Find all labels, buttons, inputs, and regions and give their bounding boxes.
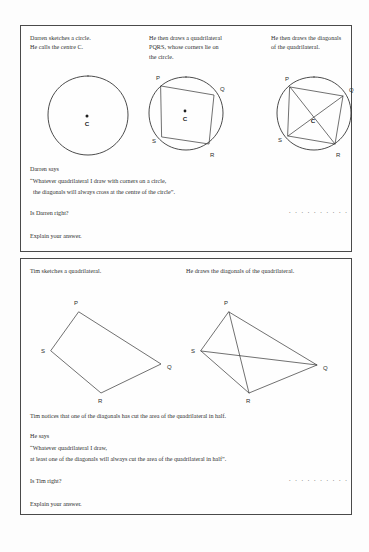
darren-explain-text: Explain your answer. bbox=[30, 231, 82, 243]
tim-quote-line2: at least one of the diagonals will alway… bbox=[30, 454, 226, 466]
circle-quad-diag-svg: C P Q R S bbox=[269, 68, 361, 160]
circle-quad-svg: C P Q R S bbox=[141, 68, 233, 160]
vertex-label-q: Q bbox=[167, 364, 172, 370]
vertex-label-q: Q bbox=[323, 365, 328, 371]
darren-ask-text: Is Darren right? bbox=[30, 208, 69, 220]
darren-says-heading: Darren says bbox=[30, 164, 175, 176]
tim-quote-line1: “Whatever quadrilateral I draw, bbox=[30, 443, 226, 455]
question-box-tim: Tim sketches a quadrilateral. He draws t… bbox=[20, 258, 352, 515]
darren-answer-line[interactable]: . . . . . . . . . . bbox=[289, 208, 348, 214]
vertex-label-s: S bbox=[152, 138, 156, 144]
darren-question-prompt: Is Darren right? bbox=[30, 208, 69, 220]
vertex-label-p: P bbox=[285, 76, 289, 82]
centre-dot bbox=[86, 115, 89, 118]
tim-notice-statement: Tim notices that one of the diagonals ha… bbox=[30, 411, 226, 423]
darren-quote-line1: “Whatever quadrilateral I draw with corn… bbox=[30, 176, 175, 188]
vertex-label-s: S bbox=[191, 348, 195, 354]
vertex-label-r: R bbox=[336, 152, 341, 158]
tim-col2-line1: He draws the diagonals of the quadrilate… bbox=[186, 267, 351, 276]
vertex-label-r: R bbox=[98, 398, 103, 404]
darren-col1-line1: Darren sketches a circle. bbox=[30, 34, 140, 43]
quad-diag-svg: P Q R S bbox=[189, 289, 339, 404]
tim-explain-text: Explain your answer. bbox=[30, 499, 82, 511]
figure-quadrilateral: P Q R S bbox=[39, 289, 179, 404]
darren-column-1: Darren sketches a circle. He calls the c… bbox=[30, 34, 140, 53]
vertex-label-s: S bbox=[278, 137, 282, 143]
question-box-darren: Darren sketches a circle. He calls the c… bbox=[20, 25, 352, 252]
tim-explain-prompt: Explain your answer. bbox=[30, 499, 82, 511]
quadrilateral-pqrs bbox=[288, 87, 343, 144]
vertex-label-q: Q bbox=[220, 86, 225, 92]
darren-col2-line1: He then draws a quadrilateral bbox=[149, 34, 267, 43]
darren-col3-line1: He then draws the diagonals bbox=[271, 34, 369, 43]
darren-statement: Darren says “Whatever quadrilateral I dr… bbox=[30, 164, 175, 199]
vertex-label-r: R bbox=[210, 152, 215, 158]
vertex-label-p: P bbox=[224, 300, 228, 306]
diagonal-pr bbox=[290, 87, 335, 144]
tim-col1-line1: Tim sketches a quadrilateral. bbox=[30, 267, 180, 276]
quadrilateral-pqrs bbox=[51, 312, 161, 393]
worksheet-page: Darren sketches a circle. He calls the c… bbox=[0, 0, 369, 552]
tim-column-1: Tim sketches a quadrilateral. bbox=[30, 267, 180, 276]
darren-quote-line2: the diagonals will always cross at the c… bbox=[30, 187, 175, 199]
centre-dot bbox=[184, 110, 187, 113]
vertex-label-s: S bbox=[41, 348, 45, 354]
quadrilateral-pqrs bbox=[161, 86, 214, 144]
tim-says-heading: He says bbox=[30, 431, 226, 443]
darren-col1-line2: He calls the centre C. bbox=[30, 43, 140, 52]
circle-plain-svg: C bbox=[45, 74, 131, 158]
centre-label: C bbox=[311, 117, 316, 124]
tim-column-2: He draws the diagonals of the quadrilate… bbox=[186, 267, 351, 276]
figure-quadrilateral-diagonals: P Q R S bbox=[189, 289, 339, 404]
tim-statement: He says “Whatever quadrilateral I draw, … bbox=[30, 431, 226, 466]
tim-ask-text: Is Tim right? bbox=[30, 476, 62, 488]
vertex-label-r: R bbox=[246, 398, 251, 404]
figure-circle-with-centre: C bbox=[45, 74, 131, 158]
centre-label: C bbox=[85, 120, 90, 127]
figure-cyclic-quadrilateral: C P Q R S bbox=[141, 68, 233, 160]
figure-cyclic-quadrilateral-diagonals: C P Q R S bbox=[269, 68, 361, 160]
darren-column-3: He then draws the diagonals of the quadr… bbox=[271, 34, 369, 53]
darren-column-2: He then draws a quadrilateral PQRS, whos… bbox=[149, 34, 267, 62]
tim-notice-text: Tim notices that one of the diagonals ha… bbox=[30, 411, 226, 423]
diagonal-qs bbox=[288, 96, 343, 136]
vertex-label-p: P bbox=[74, 300, 78, 306]
diagonal-pr bbox=[229, 312, 249, 393]
quad-plain-svg: P Q R S bbox=[39, 289, 179, 404]
darren-col2-line2: PQRS, whose corners lie on bbox=[149, 43, 267, 52]
vertex-label-p: P bbox=[156, 75, 160, 81]
tim-answer-line[interactable]: . . . . . . . . . . bbox=[289, 476, 348, 482]
vertex-label-q: Q bbox=[349, 87, 354, 93]
tim-question-prompt: Is Tim right? bbox=[30, 476, 62, 488]
centre-label: C bbox=[183, 115, 188, 122]
darren-explain-prompt: Explain your answer. bbox=[30, 231, 82, 243]
quadrilateral-pqrs bbox=[201, 312, 317, 393]
darren-col3-line2: of the quadrilateral. bbox=[271, 43, 369, 52]
darren-col2-line3: the circle. bbox=[149, 53, 267, 62]
diagonal-sq bbox=[201, 351, 317, 365]
